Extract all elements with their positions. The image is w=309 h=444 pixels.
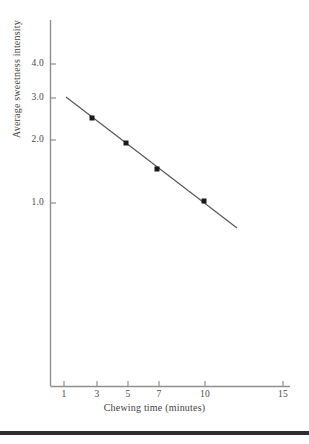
x-tick-label-7: 7	[157, 390, 162, 400]
x-axis-title: Chewing time (minutes)	[0, 402, 309, 413]
y-tick-label-4: 4.0	[24, 59, 44, 69]
data-point	[155, 167, 160, 172]
x-tick-label-3: 3	[95, 390, 100, 400]
y-axis-title: Average sweetness intensity	[11, 0, 22, 138]
x-tick-label-5: 5	[126, 390, 131, 400]
y-axis-ticks	[51, 64, 57, 203]
y-tick-label-2: 2.0	[24, 135, 44, 145]
chart-plot-area	[0, 0, 309, 444]
y-tick-label-1: 1.0	[24, 198, 44, 208]
y-tick-label-3: 3.0	[24, 93, 44, 103]
bottom-rule-divider	[0, 431, 309, 435]
data-point	[124, 141, 129, 146]
x-axis-ticks	[64, 381, 283, 387]
chart-figure: 4.0 3.0 2.0 1.0 1 3 5 7 10 15 Chewing ti…	[0, 0, 309, 444]
x-tick-label-10: 10	[200, 390, 210, 400]
data-point	[202, 199, 207, 204]
x-tick-label-1: 1	[62, 390, 67, 400]
x-tick-label-15: 15	[278, 390, 288, 400]
data-point	[90, 116, 95, 121]
